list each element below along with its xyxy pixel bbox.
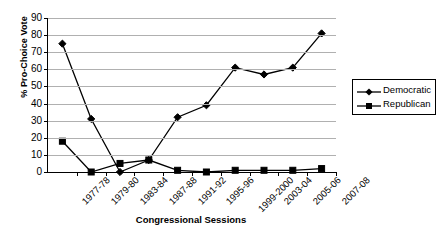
x-axis-title: Congressional Sessions [47, 214, 335, 225]
y-axis-tick-mark [44, 138, 48, 139]
x-axis-tick-label: 1987-88 [167, 175, 199, 207]
x-axis-tick-label: 1983-84 [138, 175, 170, 207]
gridline [48, 52, 336, 53]
data-point-democratic [260, 71, 267, 78]
y-axis-tick-label: 10 [31, 150, 42, 160]
series-layer [48, 18, 336, 172]
data-point-republican [117, 160, 123, 166]
plot-area [47, 18, 336, 173]
series-line-republican [62, 141, 321, 172]
legend-item-republican[interactable]: Republican [356, 97, 431, 111]
square-marker-icon [356, 98, 382, 110]
y-axis-tick-mark [44, 52, 48, 53]
y-axis-tick-mark [44, 155, 48, 156]
y-axis-tick-labels: 0102030405060708090 [18, 12, 42, 172]
gridline [48, 35, 336, 36]
y-axis-tick-mark [44, 121, 48, 122]
chart-legend: DemocraticRepublican [352, 79, 436, 115]
x-axis-tick-label: 1991-92 [196, 175, 228, 207]
y-axis-tick-mark [44, 104, 48, 105]
y-axis-tick-label: 30 [31, 116, 42, 126]
line-chart: % Pro-Choice Vote 0102030405060708090 19… [0, 0, 443, 236]
x-axis-tick-label: 1977-78 [81, 175, 113, 207]
y-axis-tick-mark [44, 18, 48, 19]
data-point-republican [59, 138, 65, 144]
y-axis-tick-label: 50 [31, 81, 42, 91]
diamond-marker-icon [356, 84, 382, 96]
y-axis-tick-label: 0 [36, 167, 42, 177]
x-axis-tick-label: 1995-96 [225, 175, 257, 207]
y-axis-tick-label: 20 [31, 133, 42, 143]
x-axis-tick-label: 2007-08 [340, 175, 372, 207]
gridline [48, 69, 336, 70]
y-axis-tick-label: 70 [31, 47, 42, 57]
legend-item-democratic[interactable]: Democratic [356, 83, 431, 97]
gridline [48, 104, 336, 105]
gridline [48, 121, 336, 122]
legend-label: Democratic [382, 85, 431, 95]
x-axis-tick-labels: 1977-781979-801983-841987-881991-921995-… [47, 172, 335, 218]
y-axis-tick-label: 90 [31, 13, 42, 23]
gridline [48, 155, 336, 156]
x-axis-tick-label: 1979-80 [109, 175, 141, 207]
y-axis-tick-label: 60 [31, 64, 42, 74]
x-axis-tick-label: 2005-06 [311, 175, 343, 207]
gridline [48, 18, 336, 19]
y-axis-tick-label: 40 [31, 99, 42, 109]
y-axis-tick-mark [44, 86, 48, 87]
data-point-republican [319, 166, 325, 172]
data-point-republican [146, 157, 152, 163]
legend-label: Republican [382, 99, 431, 109]
gridline [48, 138, 336, 139]
y-axis-tick-mark [44, 69, 48, 70]
gridline [48, 86, 336, 87]
data-point-democratic [59, 40, 66, 47]
y-axis-tick-mark [44, 35, 48, 36]
y-axis-tick-label: 80 [31, 30, 42, 40]
